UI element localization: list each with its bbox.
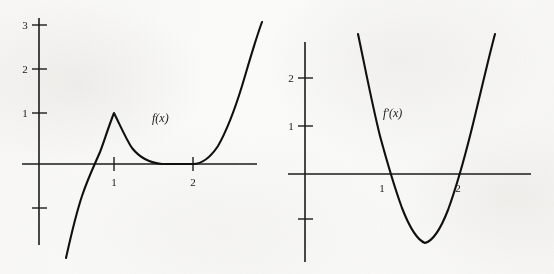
left-curve-label: f(x) xyxy=(152,111,169,125)
figure-container: 3 2 1 1 2 f(x) 2 1 1 2 f'(x) xyxy=(0,0,554,274)
right-panel-group: 2 1 1 2 f'(x) xyxy=(288,34,531,262)
left-y-label-2: 2 xyxy=(22,63,28,75)
two-panel-plot: 3 2 1 1 2 f(x) 2 1 1 2 f'(x) xyxy=(0,0,554,274)
right-x-label-1: 1 xyxy=(379,182,385,194)
right-curve-f-prime xyxy=(358,34,495,243)
right-y-label-2: 2 xyxy=(288,72,294,84)
right-curve-label: f'(x) xyxy=(383,106,402,120)
left-y-label-1: 1 xyxy=(22,107,28,119)
left-x-label-1: 1 xyxy=(111,176,117,188)
right-y-label-1: 1 xyxy=(288,120,294,132)
left-x-label-2: 2 xyxy=(190,176,196,188)
left-curve-f xyxy=(66,22,262,258)
left-panel-group: 3 2 1 1 2 f(x) xyxy=(22,18,262,258)
left-y-label-3: 3 xyxy=(22,19,28,31)
